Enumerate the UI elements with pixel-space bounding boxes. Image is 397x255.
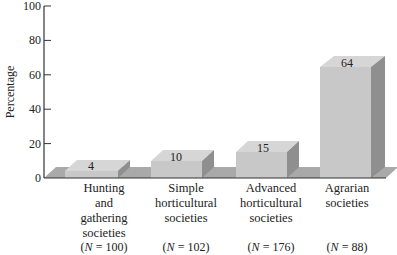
svg-text:60: 60 xyxy=(29,68,41,82)
bar-simple-horticultural: 10 xyxy=(151,150,214,178)
y-axis-label: Percentage xyxy=(3,66,17,119)
svg-text:40: 40 xyxy=(29,102,41,116)
bar-value-label: 10 xyxy=(170,150,182,164)
y-ticks xyxy=(44,6,51,144)
category-label-agrarian: Agrarian societies (N = 88) xyxy=(292,181,397,211)
bar-hunting-gathering: 4 xyxy=(65,159,130,178)
svg-text:0: 0 xyxy=(35,171,41,185)
bar-value-label: 15 xyxy=(257,141,269,155)
sample-size: (N = 88) xyxy=(292,240,397,255)
bar-value-label: 64 xyxy=(341,56,353,70)
svg-text:80: 80 xyxy=(29,33,41,47)
bar-value-label: 4 xyxy=(88,159,94,173)
svg-text:20: 20 xyxy=(29,137,41,151)
bar-advanced-horticultural: 15 xyxy=(236,141,299,178)
bar-agrarian: 64 xyxy=(320,56,385,178)
y-tick-labels: 0 20 40 60 80 100 xyxy=(23,0,41,185)
svg-text:100: 100 xyxy=(23,0,41,13)
